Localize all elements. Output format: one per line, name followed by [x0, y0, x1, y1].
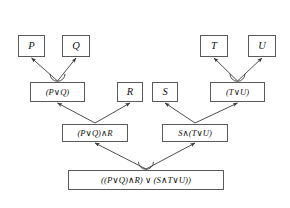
edge-pq-to-p: [32, 58, 58, 81]
node-label: R: [127, 87, 133, 98]
node-pq: (P∨Q): [30, 82, 85, 102]
node-pqr: (P∨Q)∧R: [62, 124, 128, 142]
edge-pqr-to-r: [95, 103, 130, 123]
node-label: T: [211, 41, 217, 52]
node-label: (P∨Q): [46, 88, 69, 97]
edge-pq-to-q: [58, 58, 77, 81]
edge-pqr-to-pq: [58, 103, 96, 123]
node-label: Q: [72, 41, 80, 52]
node-q: Q: [62, 35, 90, 57]
node-r: R: [117, 82, 143, 102]
junction-arc-root: [139, 162, 154, 170]
node-t: T: [200, 35, 228, 57]
edge-root-to-pqr: [95, 143, 146, 169]
node-label: (T∨U): [226, 88, 249, 97]
junction-arc-pq: [50, 74, 65, 82]
edge-tu-to-u: [238, 58, 263, 81]
edge-tu-to-t: [214, 58, 238, 81]
node-stu: S∧(T∨U): [162, 124, 228, 142]
node-label: S: [162, 87, 167, 98]
node-label: ((P∨Q)∧R) ∨ (S∧T∨U)): [101, 176, 191, 185]
node-label: S∧(T∨U): [178, 129, 212, 138]
node-s: S: [152, 82, 178, 102]
node-label: (P∨Q)∧R: [77, 129, 112, 138]
node-tu: (T∨U): [210, 82, 265, 102]
diagram-canvas: PQTU(P∨Q)RS(T∨U)(P∨Q)∧RS∧(T∨U)((P∨Q)∧R) …: [0, 0, 290, 208]
node-p: P: [18, 35, 45, 57]
node-label: P: [28, 41, 34, 52]
edge-root-to-stu: [146, 143, 195, 169]
node-label: U: [258, 41, 266, 52]
edge-stu-to-s: [165, 103, 195, 123]
edge-stu-to-tu: [195, 103, 238, 123]
junction-arc-tu: [230, 74, 245, 82]
node-root: ((P∨Q)∧R) ∨ (S∧T∨U)): [68, 170, 224, 190]
node-u: U: [248, 35, 276, 57]
